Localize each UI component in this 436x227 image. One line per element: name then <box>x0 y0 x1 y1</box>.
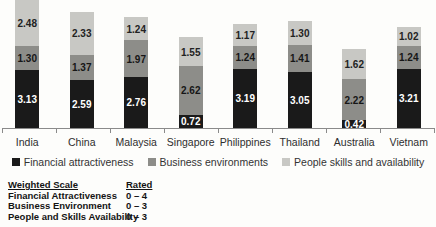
stacked-bar-australia: 1.622.220.42 <box>342 49 366 128</box>
stacked-bar-china: 2.331.372.59 <box>70 12 94 128</box>
axis-tick <box>2 128 56 133</box>
bar-segment: 2.22 <box>342 79 366 120</box>
stacked-bar-philippines: 1.171.243.19 <box>233 24 257 128</box>
stacked-bar-singapore: 1.552.620.72 <box>179 37 203 128</box>
legend-item-business: Business environments <box>148 156 269 168</box>
table-row-label: People and Skills Availability <box>8 212 126 223</box>
legend-label: Financial attractiveness <box>24 156 134 168</box>
value-label: 2.33 <box>72 28 91 39</box>
bar-column-thailand: 1.301.413.05 <box>273 0 328 128</box>
axis-tick <box>380 128 434 133</box>
table-header-rated: Rated <box>126 180 152 191</box>
bar-segment: 2.76 <box>124 77 148 128</box>
table-row-value: 0 – 3 <box>126 212 152 223</box>
bar-column-india: 2.481.303.13 <box>0 0 55 128</box>
value-label: 3.13 <box>18 94 37 105</box>
stacked-bar-chart: 2.481.303.132.331.372.591.241.972.761.55… <box>0 0 436 227</box>
bar-segment: 1.41 <box>288 45 312 71</box>
legend-item-financial: Financial attractiveness <box>12 156 134 168</box>
bar-segment: 2.59 <box>70 80 94 128</box>
axis-tick <box>326 128 380 133</box>
bar-column-china: 2.331.372.59 <box>55 0 110 128</box>
bar-segment: 1.97 <box>124 40 148 76</box>
category-label-vietnam: Vietnam <box>382 136 436 148</box>
bar-segment: 0.72 <box>179 115 203 128</box>
axis-tick <box>164 128 218 133</box>
legend-swatch-financial-icon <box>12 158 20 166</box>
table-row-label: Business Environment <box>8 201 126 212</box>
stacked-bar-thailand: 1.301.413.05 <box>288 21 312 128</box>
value-label: 1.41 <box>290 53 309 64</box>
value-label: 1.55 <box>181 46 200 57</box>
axis-tick <box>56 128 110 133</box>
value-label: 1.37 <box>72 62 91 73</box>
value-label: 2.59 <box>72 99 91 110</box>
value-label: 0.72 <box>181 116 200 127</box>
stacked-bar-malaysia: 1.241.972.76 <box>124 17 148 128</box>
legend-label: Business environments <box>160 156 269 168</box>
legend: Financial attractiveness Business enviro… <box>0 156 436 168</box>
bar-segment: 0.42 <box>342 120 366 128</box>
value-label: 2.76 <box>127 97 146 108</box>
stacked-bar-india: 2.481.303.13 <box>15 0 39 128</box>
bar-segment: 1.02 <box>397 27 421 46</box>
category-label-thailand: Thailand <box>273 136 328 148</box>
bar-segment: 1.24 <box>124 17 148 40</box>
category-labels: IndiaChinaMalaysiaSingaporePhilippinesTh… <box>0 136 436 148</box>
table-row-value: 0 – 3 <box>126 201 152 212</box>
value-label: 3.19 <box>236 93 255 104</box>
value-label: 1.02 <box>399 31 418 42</box>
value-label: 2.48 <box>18 18 37 29</box>
bar-column-vietnam: 1.021.243.21 <box>382 0 436 128</box>
value-label: 1.30 <box>18 53 37 64</box>
bar-segment: 2.33 <box>70 12 94 55</box>
value-label: 1.24 <box>236 52 255 63</box>
bar-segment: 1.62 <box>342 49 366 79</box>
bar-segment: 3.05 <box>288 72 312 128</box>
stacked-bar-vietnam: 1.021.243.21 <box>397 27 421 128</box>
legend-label: People skills and availability <box>294 156 424 168</box>
value-label: 1.97 <box>127 53 146 64</box>
x-axis-ticks <box>2 128 435 133</box>
category-label-malaysia: Malaysia <box>109 136 164 148</box>
bar-segment: 3.21 <box>397 69 421 128</box>
bar-segment: 1.24 <box>233 46 257 69</box>
value-label: 1.24 <box>399 52 418 63</box>
category-label-china: China <box>55 136 110 148</box>
weighted-scale-table: Weighted Scale Rated Financial Attractiv… <box>8 180 152 222</box>
bar-segment: 2.62 <box>179 66 203 115</box>
bar-segment: 1.17 <box>233 24 257 46</box>
category-label-philippines: Philippines <box>218 136 273 148</box>
bar-column-australia: 1.622.220.42 <box>327 0 382 128</box>
bar-column-malaysia: 1.241.972.76 <box>109 0 164 128</box>
bar-segment: 1.24 <box>397 46 421 69</box>
axis-tick <box>272 128 326 133</box>
bar-column-philippines: 1.171.243.19 <box>218 0 273 128</box>
table-header-weighted-scale: Weighted Scale <box>8 180 126 191</box>
value-label: 2.22 <box>345 94 364 105</box>
legend-item-people: People skills and availability <box>282 156 424 168</box>
legend-swatch-people-icon <box>282 158 290 166</box>
value-label: 2.62 <box>181 85 200 96</box>
value-label: 1.24 <box>127 23 146 34</box>
bar-column-singapore: 1.552.620.72 <box>164 0 219 128</box>
value-label: 1.62 <box>345 59 364 70</box>
bar-segment: 1.55 <box>179 37 203 66</box>
axis-tick <box>110 128 164 133</box>
bar-segment: 3.13 <box>15 70 39 128</box>
bar-segment: 2.48 <box>15 0 39 46</box>
bar-segment: 1.30 <box>15 46 39 70</box>
category-label-singapore: Singapore <box>164 136 219 148</box>
category-label-australia: Australia <box>327 136 382 148</box>
legend-swatch-business-icon <box>148 158 156 166</box>
bar-segment: 1.30 <box>288 21 312 45</box>
bar-segment: 1.37 <box>70 55 94 80</box>
value-label: 3.05 <box>290 94 309 105</box>
bar-segment: 3.19 <box>233 69 257 128</box>
value-label: 1.30 <box>290 28 309 39</box>
category-label-india: India <box>0 136 55 148</box>
value-label: 3.21 <box>399 93 418 104</box>
plot-area: 2.481.303.132.331.372.591.241.972.761.55… <box>0 0 436 128</box>
value-label: 1.17 <box>236 30 255 41</box>
axis-tick <box>218 128 272 133</box>
